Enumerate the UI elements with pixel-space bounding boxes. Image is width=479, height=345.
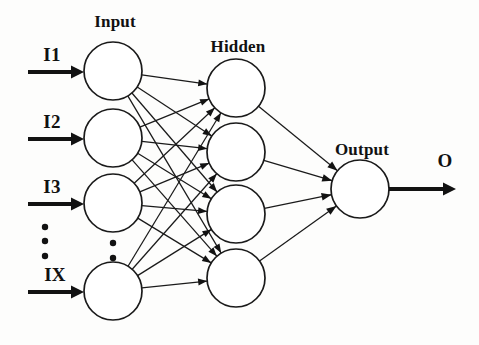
synapse-input-hidden [128,96,221,253]
neural-network-diagram: Input Hidden Output I1I2I3IXO [0,0,479,345]
output-arrow-head [443,183,456,196]
synapse-arrowhead [322,174,333,181]
input-ellipsis-dot-1 [110,240,116,246]
input-label-1: I1 [43,44,60,66]
synapse-arrowhead [213,113,221,122]
synapse-hidden-output [260,206,337,261]
synapse-arrowhead [198,79,207,86]
synapse-input-hidden [142,206,207,212]
synapse-input-hidden [132,174,217,270]
synapse-arrowhead [321,193,332,200]
synapse-arrowhead [326,206,336,215]
synapse-hidden-output [264,160,332,180]
input-label-2: I2 [43,111,60,133]
hidden-to-output-connections [258,106,337,261]
input-node-2 [84,109,142,167]
synapse-arrowhead [200,163,210,170]
input-layer-label: Input [94,12,136,32]
left-ellipsis-dot-3 [42,253,48,259]
synapse-input-hidden [142,281,207,288]
hidden-layer-nodes [207,59,265,307]
output-layer-nodes [331,160,389,218]
left-ellipsis-dot-1 [42,224,48,230]
input-arrow-4-head [71,286,84,299]
hidden-node-2 [207,123,265,181]
synapse-hidden-output [258,106,337,170]
input-label-3: I3 [43,176,60,198]
input-label-4: IX [44,264,66,286]
input-ellipsis-dot-2 [110,255,116,261]
synapse-input-hidden [134,108,215,183]
hidden-node-1 [207,59,265,117]
output-layer-label: Output [335,140,389,160]
output-label: O [438,150,453,172]
input-node-4 [84,262,142,320]
input-arrow-3-head [71,198,84,211]
input-arrow-2-head [71,133,84,146]
synapse-arrowhead [198,207,207,214]
synapse-arrowhead [198,279,207,286]
synapse-arrowhead [202,255,211,263]
left-ellipsis-dot-2 [42,238,48,244]
synapse-arrowhead [200,99,210,106]
synapse-input-hidden [138,218,211,263]
hidden-node-3 [207,185,265,243]
synapse-input-hidden [138,229,212,275]
hidden-layer-label: Hidden [210,37,265,57]
input-layer-nodes [84,42,142,320]
output-node-1 [331,160,389,218]
input-to-hidden-connections [128,75,221,288]
hidden-node-4 [207,249,265,307]
synapse-input-hidden [142,75,208,84]
synapse-arrowhead [202,191,211,199]
input-node-1 [84,42,142,100]
synapse-arrowhead [327,161,337,170]
synapse-hidden-output [264,195,331,209]
input-arrow-1-head [71,66,84,79]
input-node-3 [84,174,142,232]
